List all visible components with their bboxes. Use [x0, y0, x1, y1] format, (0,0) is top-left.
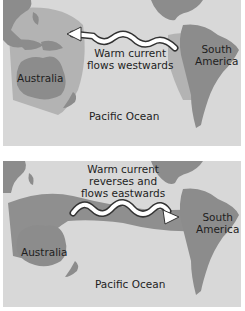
current-label: Warm current flows westwards: [87, 47, 173, 71]
australia-label: Australia: [17, 72, 63, 84]
south-america-label: South America: [196, 211, 239, 235]
indonesia-islands: [29, 173, 34, 185]
current-label: Warm current reverses and flows eastward…: [81, 163, 165, 199]
australia-label: Australia: [21, 246, 67, 258]
south-america-landmass: [180, 188, 239, 295]
map-normal-conditions: Warm current flows westwards Australia S…: [3, 0, 241, 146]
new-zealand: [65, 261, 78, 277]
map-el-nino-conditions: Warm current reverses and flows eastward…: [3, 161, 241, 307]
asia-landmass: [3, 161, 26, 193]
pacific-ocean-label: Pacific Ocean: [89, 110, 159, 122]
south-america-label: South America: [195, 43, 238, 67]
pacific-ocean-label: Pacific Ocean: [95, 278, 165, 290]
south-america-landmass: [180, 24, 239, 128]
central-america: [151, 0, 203, 20]
warm-current-arrow-fill: [73, 34, 175, 48]
